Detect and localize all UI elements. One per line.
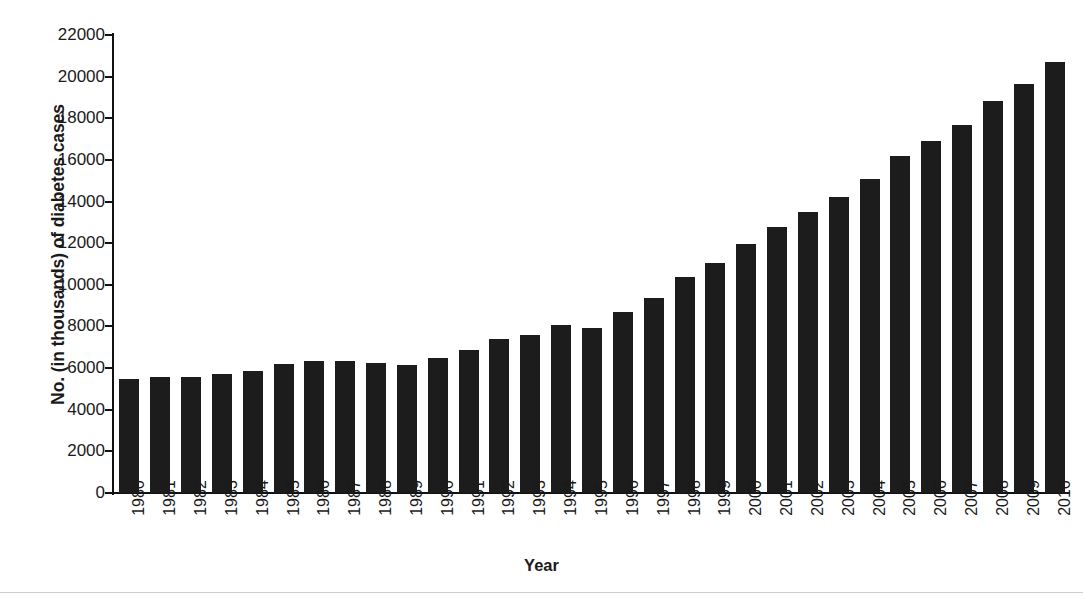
x-tick-label: 2003 [839, 480, 859, 516]
bar [613, 312, 633, 493]
x-tick-label-item: 2007 [952, 496, 972, 552]
x-tick-label: 1999 [715, 480, 735, 516]
bar [181, 377, 201, 493]
y-tick-label: 18000 [15, 109, 105, 126]
x-tick-label: 1990 [438, 480, 458, 516]
bar [921, 141, 941, 493]
y-tick-label: 22000 [15, 26, 105, 43]
bar [459, 350, 479, 493]
bar [428, 358, 448, 493]
y-tick-mark [105, 201, 114, 203]
x-tick-label: 2005 [900, 480, 920, 516]
x-axis-tick-labels: 1980198119821983198419851986198719881989… [114, 496, 1070, 556]
x-tick-label-item: 2003 [829, 496, 849, 552]
bar [705, 263, 725, 493]
bar [860, 179, 880, 493]
y-tick-label: 4000 [15, 401, 105, 418]
bar-series [114, 35, 1070, 493]
x-tick-label: 1994 [561, 480, 581, 516]
x-tick-label: 1996 [623, 480, 643, 516]
x-tick-label: 1995 [592, 480, 612, 516]
y-tick-label: 8000 [15, 317, 105, 334]
x-tick-label: 1989 [407, 480, 427, 516]
x-tick-label: 1985 [284, 480, 304, 516]
x-tick-label-item: 2006 [921, 496, 941, 552]
x-tick-label-item: 2010 [1045, 496, 1065, 552]
bar [1045, 62, 1065, 493]
x-tick-label: 1991 [469, 480, 489, 516]
bar [335, 361, 355, 493]
x-tick-label-item: 1991 [459, 496, 479, 552]
y-tick-label: 20000 [15, 68, 105, 85]
diabetes-cases-bar-chart: No. (in thousands) of diabetes cases 020… [0, 0, 1083, 609]
x-tick-label-item: 2008 [983, 496, 1003, 552]
y-tick-mark [105, 242, 114, 244]
x-tick-label-item: 1982 [181, 496, 201, 552]
bar [119, 379, 139, 494]
x-tick-label: 2010 [1055, 480, 1075, 516]
bar [150, 377, 170, 493]
x-tick-label: 1997 [654, 480, 674, 516]
bar [520, 335, 540, 493]
x-tick-label-item: 1988 [366, 496, 386, 552]
x-axis-title: Year [0, 556, 1083, 575]
x-tick-label-item: 2004 [860, 496, 880, 552]
bar [212, 374, 232, 493]
x-tick-label: 1982 [191, 480, 211, 516]
bar [829, 197, 849, 493]
x-tick-label-item: 1995 [582, 496, 602, 552]
y-tick-mark [105, 117, 114, 119]
x-tick-label: 1993 [530, 480, 550, 516]
x-tick-label: 1987 [345, 480, 365, 516]
x-tick-label-item: 1981 [150, 496, 170, 552]
x-tick-label-item: 1998 [675, 496, 695, 552]
y-tick-label: 14000 [15, 193, 105, 210]
x-tick-label-item: 1999 [705, 496, 725, 552]
bar [890, 156, 910, 493]
bar [366, 363, 386, 493]
x-tick-label-item: 1985 [274, 496, 294, 552]
y-tick-mark [105, 450, 114, 452]
bar [397, 365, 417, 493]
x-tick-label: 1983 [222, 480, 242, 516]
x-tick-label: 2000 [746, 480, 766, 516]
x-tick-label-item: 1992 [489, 496, 509, 552]
bar [274, 364, 294, 493]
x-tick-label-item: 1994 [551, 496, 571, 552]
y-tick-mark [105, 367, 114, 369]
x-tick-label: 1998 [685, 480, 705, 516]
x-tick-label-item: 2001 [767, 496, 787, 552]
x-tick-label: 2001 [777, 480, 797, 516]
x-tick-label: 2008 [993, 480, 1013, 516]
x-tick-label-item: 2005 [890, 496, 910, 552]
x-tick-label: 1984 [253, 480, 273, 516]
bar [551, 325, 571, 493]
x-tick-label-item: 2000 [736, 496, 756, 552]
y-tick-mark [105, 159, 114, 161]
bar [489, 339, 509, 493]
y-tick-label: 0 [15, 484, 105, 501]
x-tick-label: 2006 [931, 480, 951, 516]
y-tick-mark [105, 409, 114, 411]
bar [304, 361, 324, 493]
x-tick-label-item: 1983 [212, 496, 232, 552]
x-tick-label-item: 2002 [798, 496, 818, 552]
y-tick-label: 16000 [15, 151, 105, 168]
x-tick-label: 1980 [129, 480, 149, 516]
y-tick-mark [105, 34, 114, 36]
y-tick-mark [105, 284, 114, 286]
x-tick-label-item: 1980 [119, 496, 139, 552]
x-tick-label: 2004 [870, 480, 890, 516]
bar [582, 328, 602, 494]
y-tick-label: 12000 [15, 234, 105, 251]
bar [675, 277, 695, 494]
y-tick-label: 2000 [15, 442, 105, 459]
bar [767, 227, 787, 493]
bar [736, 244, 756, 493]
x-tick-label-item: 1989 [397, 496, 417, 552]
x-tick-label-item: 1993 [520, 496, 540, 552]
x-tick-label-item: 1990 [428, 496, 448, 552]
y-tick-label: 10000 [15, 276, 105, 293]
x-tick-label: 1986 [314, 480, 334, 516]
x-tick-label: 1988 [376, 480, 396, 516]
